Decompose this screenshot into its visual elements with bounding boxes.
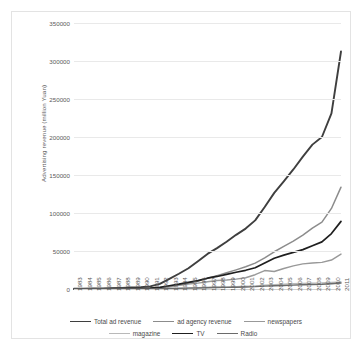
series-line [74, 187, 341, 289]
y-tick-label: 200000 [49, 134, 70, 141]
gridline [74, 99, 341, 100]
legend-row: Total ad revenuead agency revenuenewspap… [22, 315, 342, 327]
gridline [74, 175, 341, 176]
gridline [74, 213, 341, 214]
legend-label: magazine [133, 330, 161, 337]
x-tick-label: 1994 [181, 277, 188, 291]
x-tick-label: 2005 [286, 277, 293, 291]
x-tick-label: 2006 [296, 277, 303, 291]
series-lines [74, 23, 341, 289]
x-tick-label: 2009 [324, 277, 331, 291]
y-tick-label: 50000 [53, 248, 70, 255]
x-tick-label: 1987 [115, 277, 122, 291]
y-tick-label: 300000 [49, 58, 70, 65]
legend-item[interactable]: magazine [109, 330, 161, 337]
x-tick-label: 1996 [200, 277, 207, 291]
y-tick-label: 150000 [49, 172, 70, 179]
x-tick-label: 2002 [258, 277, 265, 291]
legend-label: Total ad revenue [94, 318, 141, 325]
chart-legend: Total ad revenuead agency revenuenewspap… [22, 315, 342, 339]
x-tick-label: 1988 [124, 277, 131, 291]
gridline [74, 61, 341, 62]
legend-item[interactable]: Radio [217, 330, 258, 337]
x-tick-label: 1993 [172, 277, 179, 291]
x-tick-label: 1984 [86, 277, 93, 291]
x-tick-label: 2004 [277, 277, 284, 291]
x-tick-label: 1985 [95, 277, 102, 291]
x-tick-label: 2001 [248, 277, 255, 291]
x-tick-label: 1999 [229, 277, 236, 291]
legend-row: magazineTVRadio [22, 327, 342, 339]
gridline [74, 137, 341, 138]
x-tick-label: 1998 [219, 277, 226, 291]
x-tick-label: 1995 [191, 277, 198, 291]
legend-swatch [153, 321, 174, 322]
x-tick-label: 1989 [134, 277, 141, 291]
legend-item[interactable]: newspapers [244, 318, 302, 325]
legend-label: Radio [241, 330, 258, 337]
y-tick-label: 0 [67, 286, 70, 293]
x-tick-label: 2007 [305, 277, 312, 291]
x-tick-label: 1983 [76, 277, 83, 291]
x-tick-label: 2000 [239, 277, 246, 291]
legend-swatch [109, 333, 130, 334]
x-tick-label: 1991 [153, 277, 160, 291]
gridline [74, 23, 341, 24]
x-tick-label: 2008 [315, 277, 322, 291]
x-axis: 1983198419851986198719881989199019911992… [74, 291, 341, 317]
x-tick-label: 2003 [267, 277, 274, 291]
gridline [74, 251, 341, 252]
legend-label: newspapers [268, 318, 302, 325]
x-tick-label: 1986 [105, 277, 112, 291]
x-tick-label: 1997 [210, 277, 217, 291]
y-tick-label: 100000 [49, 210, 70, 217]
legend-label: ad agency revenue [177, 318, 231, 325]
x-tick-label: 1992 [162, 277, 169, 291]
legend-swatch [70, 321, 91, 322]
series-line [74, 52, 341, 289]
legend-item[interactable]: TV [172, 330, 204, 337]
legend-swatch [244, 321, 265, 322]
legend-swatch [217, 333, 238, 334]
y-tick-label: 350000 [49, 20, 70, 27]
y-axis-title: Advertising revenue (million Yuan) [40, 49, 47, 219]
x-tick-label: 2011 [343, 278, 350, 291]
x-tick-label: 1990 [143, 277, 150, 291]
y-tick-label: 250000 [49, 96, 70, 103]
legend-swatch [172, 333, 193, 334]
plot-area: 0500001000001500002000002500003000003500… [74, 23, 341, 289]
legend-item[interactable]: Total ad revenue [70, 318, 141, 325]
legend-item[interactable]: ad agency revenue [153, 318, 231, 325]
chart-container: Advertising revenue (million Yuan) 05000… [11, 11, 351, 339]
legend-label: TV [196, 330, 204, 337]
x-tick-label: 2010 [334, 277, 341, 291]
